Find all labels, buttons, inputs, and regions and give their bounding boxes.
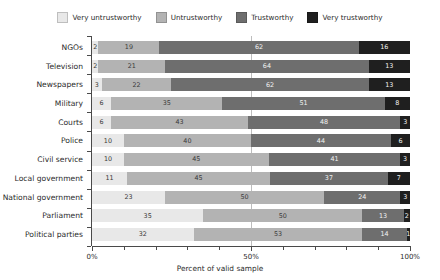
legend-swatch-icon bbox=[307, 12, 318, 23]
bar-value-label: 10 bbox=[104, 156, 112, 162]
bar-segment: 2 bbox=[404, 209, 410, 222]
bar-segment: 24 bbox=[324, 191, 400, 204]
bar-segment: 3 bbox=[92, 78, 102, 91]
bar-segment: 22 bbox=[102, 78, 172, 91]
bar-value-label: 13 bbox=[385, 82, 393, 88]
bar-segment: 50 bbox=[165, 191, 324, 204]
y-axis-label: Parliament bbox=[0, 209, 88, 222]
bar-segment: 51 bbox=[222, 97, 384, 110]
bar-row: 635518 bbox=[92, 97, 410, 110]
y-axis-tick bbox=[87, 93, 91, 94]
legend-swatch-icon bbox=[236, 12, 247, 23]
y-axis-tick bbox=[87, 246, 91, 247]
bar-segment: 10 bbox=[92, 153, 124, 166]
bar-value-label: 3 bbox=[403, 194, 407, 200]
bar-row: 3226213 bbox=[92, 78, 410, 91]
bar-value-label: 14 bbox=[380, 231, 388, 237]
bar-segment: 45 bbox=[127, 172, 270, 185]
bar-segment: 35 bbox=[111, 97, 222, 110]
bar-segment: 6 bbox=[391, 134, 410, 147]
bar-segment: 10 bbox=[92, 134, 124, 147]
y-axis-tick bbox=[87, 189, 91, 190]
bar-segment: 3 bbox=[400, 116, 410, 129]
bar-segment: 37 bbox=[270, 172, 388, 185]
y-axis-tick bbox=[87, 208, 91, 209]
y-axis-label: NGOs bbox=[0, 41, 88, 54]
y-axis-category-labels: NGOsTelevisionNewspapersMilitaryCourtsPo… bbox=[0, 38, 88, 244]
bar-segment: 3 bbox=[400, 153, 410, 166]
bar-segment: 1 bbox=[407, 228, 410, 241]
bar-value-label: 48 bbox=[320, 119, 328, 125]
plot-area: 2196216221641332262136355186434831040446… bbox=[92, 38, 410, 244]
x-axis-tick bbox=[156, 246, 157, 250]
y-axis-label: Political parties bbox=[0, 228, 88, 241]
bar-row: 3550132 bbox=[92, 209, 410, 222]
bar-segment: 64 bbox=[165, 60, 369, 73]
bar-value-label: 21 bbox=[128, 63, 136, 69]
bar-row: 643483 bbox=[92, 116, 410, 129]
y-axis-label: Courts bbox=[0, 116, 88, 129]
bar-segment: 6 bbox=[92, 97, 111, 110]
legend-label: Very trustworthy bbox=[322, 14, 382, 21]
bar-value-label: 11 bbox=[105, 175, 113, 181]
bar-segment: 62 bbox=[159, 41, 358, 54]
bar-value-label: 40 bbox=[183, 138, 191, 144]
y-axis-label: Newspapers bbox=[0, 78, 88, 91]
bar-value-label: 45 bbox=[192, 156, 200, 162]
bar-row: 2350243 bbox=[92, 191, 410, 204]
y-axis-label: National government bbox=[0, 191, 88, 204]
bar-segment: 21 bbox=[98, 60, 165, 73]
legend-entry: Very untrustworthy bbox=[57, 12, 141, 23]
bar-value-label: 1 bbox=[407, 231, 410, 237]
bar-value-label: 3 bbox=[95, 82, 99, 88]
x-axis: 0%50%100% bbox=[92, 246, 410, 247]
bar-segment: 6 bbox=[92, 116, 111, 129]
y-axis-label: Local government bbox=[0, 172, 88, 185]
bar-value-label: 2 bbox=[405, 213, 409, 219]
bar-segment: 45 bbox=[124, 153, 269, 166]
y-axis-tick bbox=[87, 170, 91, 171]
x-axis-tick bbox=[187, 246, 188, 250]
bar-value-label: 13 bbox=[379, 213, 387, 219]
x-axis-tick-label: 50% bbox=[243, 253, 259, 261]
bar-value-label: 43 bbox=[175, 119, 183, 125]
bar-value-label: 7 bbox=[397, 175, 401, 181]
bar-segment: 8 bbox=[385, 97, 410, 110]
x-axis-tick bbox=[124, 246, 125, 250]
legend-swatch-icon bbox=[57, 12, 68, 23]
bar-row: 1145377 bbox=[92, 172, 410, 185]
bar-segment: 32 bbox=[92, 228, 194, 241]
bar-row: 2196216 bbox=[92, 41, 410, 54]
x-axis-title: Percent of valid sample bbox=[0, 264, 440, 273]
y-axis-tick bbox=[87, 227, 91, 228]
bar-segment: 13 bbox=[362, 209, 403, 222]
bar-value-label: 24 bbox=[358, 194, 366, 200]
legend-swatch-icon bbox=[156, 12, 167, 23]
y-axis-label: Police bbox=[0, 134, 88, 147]
legend-entry: Very trustworthy bbox=[307, 12, 382, 23]
bar-value-label: 3 bbox=[403, 156, 407, 162]
x-axis-tick bbox=[346, 246, 347, 250]
bar-value-label: 35 bbox=[163, 100, 171, 106]
bar-segment: 50 bbox=[203, 209, 362, 222]
stacked-bar-chart: Very untrustworthyUntrustworthyTrustwort… bbox=[0, 0, 440, 280]
bar-value-label: 50 bbox=[241, 194, 249, 200]
bar-value-label: 2 bbox=[93, 63, 97, 69]
bar-value-label: 35 bbox=[144, 213, 152, 219]
bar-segment: 40 bbox=[124, 134, 251, 147]
bar-segment: 48 bbox=[248, 116, 401, 129]
bar-segment: 16 bbox=[359, 41, 410, 54]
bar-value-label: 10 bbox=[104, 138, 112, 144]
y-axis-tick bbox=[87, 55, 91, 56]
legend-label: Trustworthy bbox=[251, 14, 293, 21]
bar-row: 2216413 bbox=[92, 60, 410, 73]
y-axis-tick bbox=[87, 36, 91, 37]
bar-value-label: 50 bbox=[279, 213, 287, 219]
chart-legend: Very untrustworthyUntrustworthyTrustwort… bbox=[0, 12, 440, 23]
x-axis-tick bbox=[410, 246, 411, 251]
bar-value-label: 6 bbox=[398, 138, 402, 144]
bar-segment: 14 bbox=[362, 228, 407, 241]
y-axis-tick bbox=[87, 131, 91, 132]
legend-label: Untrustworthy bbox=[171, 14, 223, 21]
bar-segment: 62 bbox=[171, 78, 368, 91]
